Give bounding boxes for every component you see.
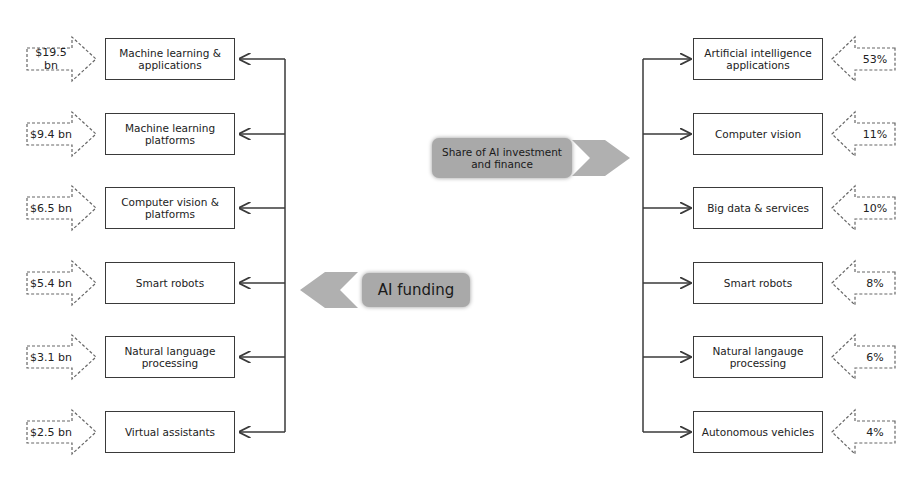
investment-category-box: Computer vision	[693, 113, 823, 155]
ai-investment-title: Share of AI investment and finance	[432, 138, 572, 178]
share-value: 4%	[856, 421, 894, 443]
share-value: 11%	[856, 123, 894, 145]
funding-category-box: Virtual assistants	[105, 411, 235, 453]
share-value: 8%	[856, 272, 894, 294]
funding-value: $3.1 bn	[27, 346, 75, 368]
investment-category-box: Natural langauge processing	[693, 336, 823, 378]
investment-category-box: Artificial intelligence applications	[693, 38, 823, 80]
left-chevron-icon	[300, 272, 358, 308]
investment-category-box: Big data & services	[693, 187, 823, 229]
funding-category-box: Smart robots	[105, 262, 235, 304]
share-value: 53%	[856, 48, 894, 70]
funding-category-box: Machine learning & applications	[105, 38, 235, 80]
right-chevron-icon	[572, 140, 630, 176]
funding-category-box: Machine learning platforms	[105, 113, 235, 155]
ai-funding-title: AI funding	[362, 273, 470, 307]
funding-category-box: Natural language processing	[105, 336, 235, 378]
share-value: 6%	[856, 346, 894, 368]
investment-category-box: Autonomous vehicles	[693, 411, 823, 453]
funding-value: $5.4 bn	[27, 272, 75, 294]
funding-value: $9.4 bn	[27, 123, 75, 145]
funding-value: $2.5 bn	[27, 421, 75, 443]
funding-value: $6.5 bn	[27, 197, 75, 219]
funding-category-box: Computer vision & platforms	[105, 187, 235, 229]
investment-category-box: Smart robots	[693, 262, 823, 304]
share-value: 10%	[856, 197, 894, 219]
funding-value: $19.5 bn	[27, 48, 75, 70]
